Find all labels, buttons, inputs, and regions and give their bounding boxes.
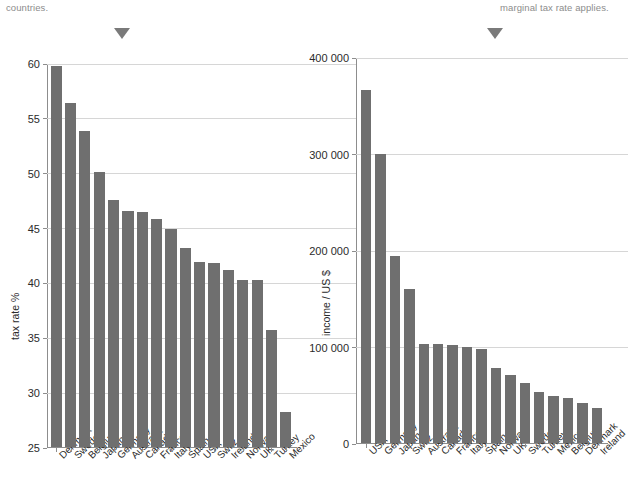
x-axis-tick [71,448,72,452]
bar [491,368,501,443]
bar [592,408,602,443]
x-axis-tick [496,444,497,448]
bar [548,396,558,443]
x-axis-tick [171,448,172,452]
bar [122,211,133,447]
x-axis-tick [539,444,540,448]
y-axis-tick-label: 30 [28,387,40,399]
x-axis-tick [286,448,287,452]
tax-rate-bar-chart: tax rate % 2530354045505560DenmarkSweden… [0,50,314,491]
bar [79,131,90,447]
x-axis-tick [85,448,86,452]
bar [223,270,234,447]
bar [433,344,443,443]
x-axis-tick [424,444,425,448]
x-axis-tick [554,444,555,448]
y-axis-tick [352,251,356,252]
x-axis-tick [395,444,396,448]
triangle-down-icon-left [114,28,130,39]
bar [419,344,429,443]
x-axis-tick [228,448,229,452]
bar [375,154,385,444]
y-axis-tick [43,173,47,174]
y-axis-tick [43,228,47,229]
bar [390,256,400,443]
y-axis-tick [352,444,356,445]
y-axis-tick [43,283,47,284]
x-axis-tick [453,444,454,448]
x-axis-tick [525,444,526,448]
y-axis-tick-label: 40 [28,277,40,289]
bar [237,280,248,447]
y-axis-tick [352,347,356,348]
x-axis-tick [409,444,410,448]
y-axis-tick-label: 35 [28,332,40,344]
bar [476,349,486,443]
x-axis-tick [157,448,158,452]
x-axis-tick [510,444,511,448]
y-axis-title-tax-rate: tax rate % [9,293,21,340]
x-axis-tick [243,448,244,452]
gridline [356,154,628,155]
y-axis-title-income: income / US $ [320,270,332,336]
bar [462,347,472,444]
x-axis-tick [128,448,129,452]
bar [180,248,191,447]
bar [194,262,205,447]
y-axis-tick-label: 55 [28,113,40,125]
y-axis-line [47,64,48,448]
plot-area-income: 0100 000200 000300 000400 000USAGermanyJ… [356,58,608,444]
bar [361,90,371,443]
x-axis-tick [568,444,569,448]
bar [151,219,162,447]
y-axis-tick-label: 50 [28,168,40,180]
y-axis-tick [43,64,47,65]
bar [137,212,148,447]
gridline [356,58,628,59]
bar [404,289,414,443]
y-axis-tick-label: 300 000 [309,149,349,161]
x-axis-tick [114,448,115,452]
y-axis-tick-label: 60 [28,58,40,70]
y-axis-tick [43,448,47,449]
bar [280,412,291,447]
bar [252,280,263,447]
x-axis-tick [467,444,468,448]
y-axis-tick-label: 25 [28,442,40,454]
y-axis-tick-label: 0 [343,438,349,450]
x-axis-tick [214,448,215,452]
plot-area-tax-rate: 2530354045505560DenmarkSwedenBelgiumJapa… [47,64,297,448]
caption-text-left: countries. [6,2,48,13]
y-axis-tick-label: 100 000 [309,342,349,354]
y-axis-tick-label: 45 [28,223,40,235]
bar [51,66,62,447]
bar [65,103,76,448]
bar [534,392,544,443]
y-axis-tick [43,393,47,394]
bar [266,330,277,447]
income-bar-chart: income / US $ 0100 000200 000300 000400 … [314,36,628,491]
bar [108,200,119,447]
x-axis-tick [99,448,100,452]
y-axis-tick [43,118,47,119]
figure-page: countries. marginal tax rate applies. ta… [0,0,628,491]
y-axis-tick [43,338,47,339]
y-axis-tick [352,154,356,155]
bar [520,383,530,443]
y-axis-tick-label: 200 000 [309,245,349,257]
x-axis-tick [200,448,201,452]
gridline [356,251,628,252]
bar [165,229,176,447]
y-axis-tick-label: 400 000 [309,52,349,64]
x-axis-tick [438,444,439,448]
bar [563,398,573,443]
x-axis-tick [142,448,143,452]
x-axis-tick [257,448,258,452]
bar [577,403,587,443]
x-axis-tick [582,444,583,448]
bar [208,263,219,447]
x-axis-tick [482,444,483,448]
x-axis-tick [56,448,57,452]
x-axis-tick [185,448,186,452]
x-axis-tick [366,444,367,448]
